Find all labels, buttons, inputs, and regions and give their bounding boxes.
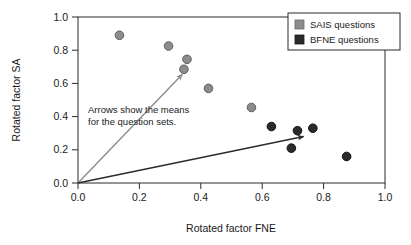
legend: SAIS questions BFNE questions <box>288 13 400 50</box>
y-tick-label: 0.2 <box>53 143 68 155</box>
annotation-line-2: for the question sets. <box>88 116 176 127</box>
x-tick-label: 0.0 <box>71 191 86 203</box>
x-tick-label: 0.8 <box>316 191 331 203</box>
y-axis-title: Rotated factor SA <box>10 59 22 142</box>
annotation-note: Arrows show the means for the question s… <box>88 104 190 127</box>
x-tick-label: 0.6 <box>255 191 270 203</box>
x-axis-title: Rotated factor FNE <box>186 222 276 234</box>
mean-arrow-sais <box>78 74 182 183</box>
data-point <box>342 152 351 161</box>
data-point <box>115 31 124 40</box>
data-point <box>180 65 189 74</box>
data-point <box>287 144 296 153</box>
legend-label-bfne: BFNE questions <box>310 34 379 45</box>
annotation-line-1: Arrows show the means <box>88 104 190 115</box>
mean-arrow-bfne <box>78 137 304 183</box>
data-point <box>247 103 256 112</box>
y-tick-label: 1.0 <box>53 11 68 23</box>
data-point <box>164 42 173 51</box>
y-tick-label: 0.0 <box>53 177 68 189</box>
y-tick-label: 0.4 <box>53 110 68 122</box>
x-tick-label: 1.0 <box>378 191 393 203</box>
legend-label-sais: SAIS questions <box>310 19 375 30</box>
scatter-plot-figure: 0.00.20.40.60.81.0 0.00.20.40.60.81.0 Ro… <box>0 0 411 245</box>
data-point <box>309 124 318 133</box>
data-point <box>293 126 302 135</box>
x-tick-label: 0.2 <box>132 191 147 203</box>
data-point <box>204 84 213 93</box>
data-point <box>183 55 192 64</box>
x-tick-label: 0.4 <box>193 191 208 203</box>
y-axis-ticks: 0.00.20.40.60.81.0 <box>53 11 78 189</box>
x-axis-ticks: 0.00.20.40.60.81.0 <box>71 183 393 203</box>
plot-canvas: 0.00.20.40.60.81.0 0.00.20.40.60.81.0 Ro… <box>0 0 411 245</box>
y-tick-label: 0.8 <box>53 44 68 56</box>
legend-swatch-bfne <box>295 35 304 44</box>
data-point <box>267 122 276 131</box>
y-tick-label: 0.6 <box>53 77 68 89</box>
legend-swatch-sais <box>295 20 304 29</box>
